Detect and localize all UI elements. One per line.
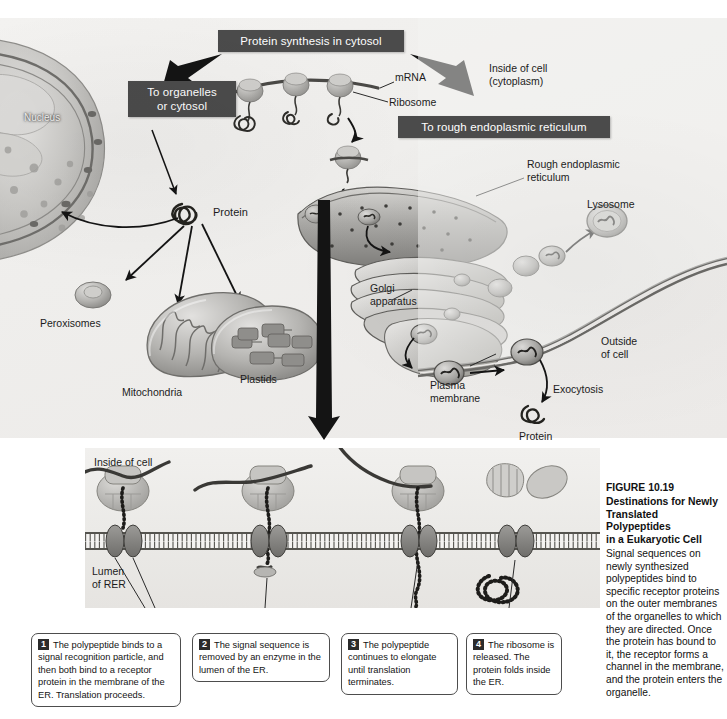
label-exocytosis: Exocytosis — [553, 383, 603, 396]
figure-caption: FIGURE 10.19 Destinations for Newly Tran… — [606, 482, 724, 699]
label-inside-of-cell: Inside of cell (cytoplasm) — [489, 62, 547, 87]
label-peroxisomes: Peroxisomes — [40, 317, 101, 330]
step-callout-4: 4The ribosome is released. The protein f… — [466, 633, 562, 695]
label-ribosome: Ribosome — [389, 96, 436, 109]
stage-4-released — [478, 460, 573, 602]
label-outside-of-cell: Outside of cell — [601, 335, 637, 360]
label-plasma-membrane: Plasma membrane — [430, 379, 480, 404]
banner-to-rough-er: To rough endoplasmic reticulum — [398, 116, 610, 138]
figure-title: Destinations for Newly Translated Polype… — [606, 496, 724, 547]
step-text-4: The ribosome is released. The protein fo… — [473, 640, 554, 687]
step-number-2: 2 — [199, 639, 210, 650]
inset-artwork — [85, 448, 600, 608]
label-protein-secreted: Protein — [519, 430, 552, 443]
label-lumen-of-rer: Lumen of RER — [92, 565, 126, 590]
er-translocation-inset: Inside of cell Lumen of RER — [85, 448, 600, 608]
label-lysosome: Lysosome — [587, 198, 634, 211]
banner-to-organelles: To organelles or cytosol — [128, 81, 236, 117]
step-number-4: 4 — [473, 639, 484, 650]
step-text-3: The polypeptide continues to elongate un… — [348, 640, 436, 687]
step-number-1: 1 — [38, 639, 49, 650]
peroxisome-illustration — [75, 282, 111, 308]
step-text-2: The signal sequence is removed by an enz… — [199, 640, 321, 675]
step-callout-1: 1The polypeptide binds to a signal recog… — [31, 633, 181, 707]
top-illustration-panel: Protein synthesis in cytosol To organell… — [0, 18, 727, 438]
figure-number: FIGURE 10.19 — [606, 482, 724, 495]
label-mitochondria: Mitochondria — [122, 386, 182, 399]
banner-protein-synthesis: Protein synthesis in cytosol — [218, 30, 404, 52]
top-panel-artwork — [0, 18, 727, 438]
figure-10-19: Protein synthesis in cytosol To organell… — [0, 0, 727, 719]
step-number-3: 3 — [348, 639, 359, 650]
stage-2-ribosome — [195, 466, 311, 577]
label-inside-of-cell-inset: Inside of cell — [94, 456, 152, 469]
step-text-1: The polypeptide binds to a signal recogn… — [38, 640, 165, 700]
figure-body-text: Signal sequences on newly synthesized po… — [606, 548, 724, 699]
label-nucleus: Nucleus — [24, 112, 60, 125]
label-golgi: Golgi apparatus — [370, 282, 417, 307]
label-mrna: mRNA — [395, 71, 426, 84]
stage-3-ribosome — [335, 448, 444, 608]
step-callout-3: 3The polypeptide continues to elongate u… — [341, 633, 458, 695]
inset-leader-lines — [115, 558, 515, 608]
label-protein-cytosol: Protein — [213, 206, 248, 219]
plasma-membrane-illustration — [418, 18, 727, 423]
polysome-illustration — [232, 73, 394, 131]
step-callout-2: 2The signal sequence is removed by an en… — [192, 633, 330, 682]
nucleus-illustration — [0, 38, 104, 262]
label-rough-er: Rough endoplasmic reticulum — [527, 158, 620, 183]
plastids-illustration — [212, 306, 323, 380]
label-plastids: Plastids — [240, 373, 277, 386]
